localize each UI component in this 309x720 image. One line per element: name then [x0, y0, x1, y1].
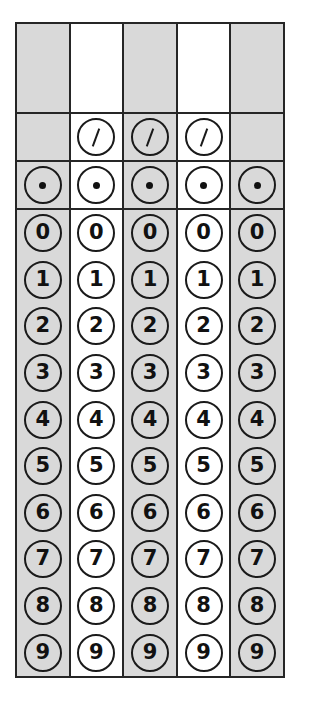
digit-bubble-0: 0 — [131, 214, 169, 252]
digit-label: 1 — [35, 269, 50, 290]
answer-entry-box-2[interactable] — [71, 24, 123, 114]
digit-cell-1-4[interactable]: 4 — [17, 396, 69, 443]
grid-column-1: 0 1 2 3 4 5 6 7 8 9 — [17, 24, 71, 676]
digit-cell-2-6[interactable]: 6 — [71, 490, 123, 537]
digit-bubble-5: 5 — [24, 447, 62, 485]
dot-cell-1[interactable] — [17, 162, 69, 210]
answer-entry-box-4[interactable] — [178, 24, 230, 114]
digit-cell-3-1[interactable]: 1 — [124, 257, 176, 304]
digit-cell-5-2[interactable]: 2 — [231, 303, 283, 350]
digit-cell-4-5[interactable]: 5 — [178, 443, 230, 490]
digit-cell-3-3[interactable]: 3 — [124, 350, 176, 397]
digit-label: 2 — [35, 315, 50, 336]
digit-cell-3-4[interactable]: 4 — [124, 396, 176, 443]
digit-cell-1-6[interactable]: 6 — [17, 490, 69, 537]
dot-icon[interactable] — [24, 166, 62, 204]
dot-cell-5[interactable] — [231, 162, 283, 210]
digit-cell-4-4[interactable]: 4 — [178, 396, 230, 443]
digit-bubble-7: 7 — [24, 540, 62, 578]
digit-label: 6 — [143, 502, 158, 523]
digit-cell-5-9[interactable]: 9 — [231, 629, 283, 676]
digit-label: 3 — [250, 362, 265, 383]
digit-cell-2-5[interactable]: 5 — [71, 443, 123, 490]
digit-cell-3-8[interactable]: 8 — [124, 583, 176, 630]
slash-icon[interactable] — [185, 118, 223, 156]
digit-cell-3-0[interactable]: 0 — [124, 210, 176, 257]
digit-cell-1-7[interactable]: 7 — [17, 536, 69, 583]
digit-label: 7 — [196, 548, 211, 569]
digit-cell-4-9[interactable]: 9 — [178, 629, 230, 676]
dot-cell-4[interactable] — [178, 162, 230, 210]
dot-cell-2[interactable] — [71, 162, 123, 210]
slash-icon[interactable] — [77, 118, 115, 156]
digit-cell-4-3[interactable]: 3 — [178, 350, 230, 397]
digit-cell-1-1[interactable]: 1 — [17, 257, 69, 304]
digit-cell-2-7[interactable]: 7 — [71, 536, 123, 583]
digit-cell-2-3[interactable]: 3 — [71, 350, 123, 397]
digit-cell-3-2[interactable]: 2 — [124, 303, 176, 350]
digit-cell-4-1[interactable]: 1 — [178, 257, 230, 304]
digit-cell-5-8[interactable]: 8 — [231, 583, 283, 630]
answer-grid: 0 1 2 3 4 5 6 7 8 9 — [15, 22, 285, 678]
digit-cell-2-0[interactable]: 0 — [71, 210, 123, 257]
grid-column-2: 0 1 2 3 4 5 6 7 8 9 — [71, 24, 125, 676]
digit-bubble-6: 6 — [238, 494, 276, 532]
digit-cell-5-7[interactable]: 7 — [231, 536, 283, 583]
digit-cell-4-7[interactable]: 7 — [178, 536, 230, 583]
digit-label: 8 — [35, 595, 50, 616]
dot-icon[interactable] — [131, 166, 169, 204]
digit-cell-1-0[interactable]: 0 — [17, 210, 69, 257]
digit-cell-4-0[interactable]: 0 — [178, 210, 230, 257]
digit-cell-1-9[interactable]: 9 — [17, 629, 69, 676]
digit-bubble-7: 7 — [77, 540, 115, 578]
digit-cell-5-5[interactable]: 5 — [231, 443, 283, 490]
digit-cell-4-8[interactable]: 8 — [178, 583, 230, 630]
digit-cell-3-6[interactable]: 6 — [124, 490, 176, 537]
answer-entry-box-3[interactable] — [124, 24, 176, 114]
digit-cell-2-9[interactable]: 9 — [71, 629, 123, 676]
dot-icon[interactable] — [185, 166, 223, 204]
digit-cell-3-9[interactable]: 9 — [124, 629, 176, 676]
digit-bubble-1: 1 — [24, 261, 62, 299]
slash-icon[interactable] — [131, 118, 169, 156]
dot-icon[interactable] — [238, 166, 276, 204]
digit-cell-5-1[interactable]: 1 — [231, 257, 283, 304]
digit-cell-5-6[interactable]: 6 — [231, 490, 283, 537]
digit-cell-1-5[interactable]: 5 — [17, 443, 69, 490]
digit-bubble-6: 6 — [77, 494, 115, 532]
digit-cell-3-5[interactable]: 5 — [124, 443, 176, 490]
digit-bubble-1: 1 — [238, 261, 276, 299]
slash-cell-2[interactable] — [71, 114, 123, 162]
digit-cell-1-3[interactable]: 3 — [17, 350, 69, 397]
digit-cell-2-2[interactable]: 2 — [71, 303, 123, 350]
answer-entry-box-5[interactable] — [231, 24, 283, 114]
digit-cell-2-8[interactable]: 8 — [71, 583, 123, 630]
digit-cell-5-3[interactable]: 3 — [231, 350, 283, 397]
digit-cell-3-7[interactable]: 7 — [124, 536, 176, 583]
digit-cell-1-2[interactable]: 2 — [17, 303, 69, 350]
digit-label: 1 — [143, 269, 158, 290]
digit-cell-5-0[interactable]: 0 — [231, 210, 283, 257]
slash-cell-3[interactable] — [124, 114, 176, 162]
digit-bubble-3: 3 — [24, 354, 62, 392]
digit-bubble-2: 2 — [185, 307, 223, 345]
digit-cell-2-1[interactable]: 1 — [71, 257, 123, 304]
digit-bubble-7: 7 — [185, 540, 223, 578]
digit-bubble-8: 8 — [238, 587, 276, 625]
digit-bubble-3: 3 — [185, 354, 223, 392]
answer-entry-box-1[interactable] — [17, 24, 69, 114]
slash-cell-4[interactable] — [178, 114, 230, 162]
digit-cell-5-4[interactable]: 4 — [231, 396, 283, 443]
digit-cell-2-4[interactable]: 4 — [71, 396, 123, 443]
digit-cell-4-2[interactable]: 2 — [178, 303, 230, 350]
digit-cell-4-6[interactable]: 6 — [178, 490, 230, 537]
digit-bubble-1: 1 — [77, 261, 115, 299]
digit-label: 4 — [89, 409, 104, 430]
digit-label: 8 — [143, 595, 158, 616]
digit-label: 5 — [89, 455, 104, 476]
digit-label: 4 — [196, 409, 211, 430]
dot-cell-3[interactable] — [124, 162, 176, 210]
dot-icon[interactable] — [77, 166, 115, 204]
digit-cell-1-8[interactable]: 8 — [17, 583, 69, 630]
digit-label: 6 — [89, 502, 104, 523]
